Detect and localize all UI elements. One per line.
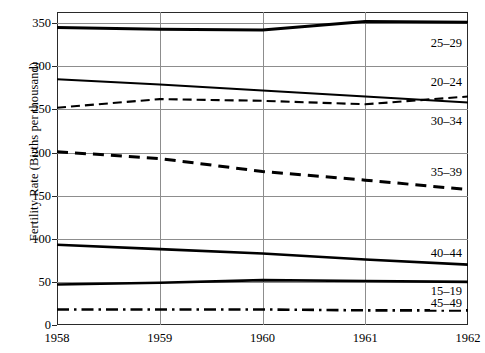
series-line-45-49 xyxy=(57,309,468,310)
y-tick-mark-0 xyxy=(52,325,57,326)
series-line-15-19 xyxy=(57,280,468,284)
x-tick-label-1961: 1961 xyxy=(353,332,378,345)
y-tick-label-200: 200 xyxy=(32,146,51,159)
x-tick-label-1958: 1958 xyxy=(45,332,70,345)
y-tick-label-300: 300 xyxy=(32,60,51,73)
x-tick-label-1960: 1960 xyxy=(250,332,275,345)
lines-svg xyxy=(57,12,468,325)
series-label-45-49: 45–49 xyxy=(430,297,463,310)
series-line-25-29 xyxy=(57,21,468,30)
y-tick-label-100: 100 xyxy=(32,233,51,246)
y-tick-label-250: 250 xyxy=(32,103,51,116)
y-tick-label-0: 0 xyxy=(45,319,51,332)
y-tick-label-150: 150 xyxy=(32,189,51,202)
series-label-40-44: 40–44 xyxy=(430,246,463,259)
x-tick-label-1959: 1959 xyxy=(147,332,172,345)
series-lines xyxy=(57,12,468,325)
fertility-rate-line-chart: Fertility Rate (Births per thousand) 050… xyxy=(0,0,485,353)
plot-area: 050100150200250300350 195819591960196119… xyxy=(57,12,468,325)
series-label-35-39: 35–39 xyxy=(430,165,463,178)
series-label-20-24: 20–24 xyxy=(430,76,463,89)
series-label-30-34: 30–34 xyxy=(430,114,463,127)
series-line-35-39 xyxy=(57,152,468,190)
series-label-25-29: 25–29 xyxy=(430,37,463,50)
series-line-40-44 xyxy=(57,245,468,265)
y-tick-label-350: 350 xyxy=(32,17,51,30)
y-tick-label-50: 50 xyxy=(39,276,52,289)
series-label-15-19: 15–19 xyxy=(430,284,463,297)
x-tick-label-1962: 1962 xyxy=(456,332,481,345)
series-line-30-34 xyxy=(57,79,468,102)
